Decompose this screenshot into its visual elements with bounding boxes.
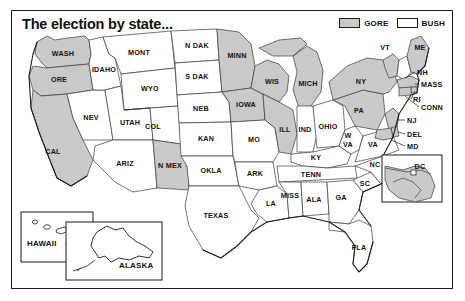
leader-del [398, 132, 405, 134]
hawaii-island-oahu [44, 225, 51, 229]
label-va: VA [368, 140, 378, 149]
label-nev: NEV [83, 113, 98, 122]
label-mass: MASS [421, 80, 443, 89]
label-col: COL [145, 122, 161, 131]
label-iowa: IOWA [236, 100, 256, 109]
label-neb: NEB [193, 104, 209, 113]
label-tenn: TENN [301, 170, 321, 179]
label-me: ME [414, 43, 425, 52]
label-ariz: ARIZ [116, 159, 134, 168]
label-nj: NJ [407, 116, 417, 125]
label-la: LA [266, 199, 276, 208]
label-nmex: N MEX [158, 161, 182, 170]
label-alaska: ALASKA [119, 261, 154, 270]
state-ga[interactable] [327, 180, 363, 224]
election-map-figure: The election by state... GORE BUSH [0, 0, 465, 301]
label-nh: NH [417, 68, 428, 77]
label-mich: MICH [298, 79, 317, 88]
label-okla: OKLA [200, 166, 221, 175]
label-fla: FLA [352, 243, 367, 252]
label-dc: DC [415, 162, 426, 171]
label-ga: GA [335, 193, 346, 202]
label-ohio: OHIO [318, 122, 337, 131]
state-texas[interactable] [185, 186, 259, 258]
label-ill: ILL [279, 125, 291, 134]
label-hawaii: HAWAII [27, 239, 57, 248]
state-conn[interactable] [399, 87, 411, 96]
label-texas: TEXAS [204, 211, 229, 220]
label-ri: RI [413, 95, 421, 104]
label-ind: IND [299, 125, 312, 134]
label-minn: MINN [227, 51, 246, 60]
label-wash: WASH [52, 49, 74, 58]
label-miss: MISS [281, 191, 299, 200]
label-wis: WIS [265, 77, 279, 86]
label-wva-line2: VA [343, 140, 353, 149]
state-minn[interactable] [217, 29, 255, 92]
state-ri[interactable] [411, 87, 417, 93]
label-sc: SC [360, 179, 370, 188]
label-mont: MONT [128, 48, 150, 57]
label-wva-line1: W [345, 131, 352, 140]
label-ark: ARK [247, 169, 264, 178]
state-md[interactable] [375, 128, 393, 140]
label-wyo: WYO [141, 84, 159, 93]
label-del: DEL [407, 130, 422, 139]
us-map-svg: WASH ORE CAL NEV IDAHO MONT WYO UTAH ARI… [11, 10, 453, 289]
label-nc: NC [370, 160, 381, 169]
label-utah: UTAH [120, 118, 140, 127]
label-ore: ORE [51, 75, 67, 84]
label-mo: MO [248, 135, 260, 144]
label-kan: KAN [198, 134, 214, 143]
label-ala: ALA [306, 195, 321, 204]
label-ndak: N DAK [185, 41, 209, 50]
label-pa: PA [354, 106, 364, 115]
label-vt: VT [380, 43, 390, 52]
label-cal: CAL [45, 147, 61, 156]
label-idaho: IDAHO [92, 65, 116, 74]
label-sdak: S DAK [185, 72, 209, 81]
label-conn: CONN [421, 103, 443, 112]
label-ky: KY [311, 153, 321, 162]
label-md: MD [407, 142, 419, 151]
hawaii-island-kauai [32, 220, 37, 224]
label-ny: NY [356, 77, 366, 86]
